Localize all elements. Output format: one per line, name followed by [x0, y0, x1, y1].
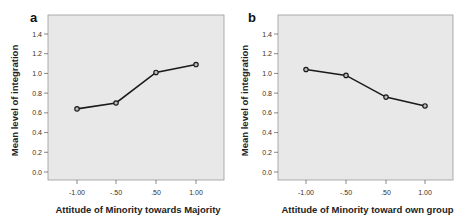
y-tick-label: 1.2	[262, 50, 272, 57]
x-tick-label: -1.00	[298, 189, 314, 196]
data-point	[114, 101, 118, 105]
x-tick-label: -.50	[340, 189, 352, 196]
chart-panel-b: b0.00.20.40.60.81.01.21.4-1.00-.50.501.0…	[239, 10, 454, 215]
data-point	[194, 62, 198, 66]
y-tick-label: 0.4	[32, 129, 42, 136]
data-point	[384, 95, 388, 99]
y-tick-label: 0.0	[262, 169, 272, 176]
data-point	[304, 67, 308, 71]
data-point	[344, 73, 348, 77]
y-tick-label: 1.4	[262, 31, 272, 38]
y-tick-label: 0.6	[262, 109, 272, 116]
panel-label: a	[30, 10, 38, 25]
y-tick-label: 0.2	[262, 149, 272, 156]
x-tick-label: 1.00	[189, 189, 203, 196]
data-point	[423, 104, 427, 108]
data-point	[154, 70, 158, 74]
y-tick-label: 0.6	[32, 109, 42, 116]
x-axis-label: Attitude of Minority towards Majority	[55, 204, 221, 215]
chart-panel-a: a0.00.20.40.60.81.01.21.4-1.00-.50.501.0…	[9, 10, 224, 215]
y-tick-label: 1.2	[32, 50, 42, 57]
x-tick-label: .50	[151, 189, 161, 196]
y-tick-label: 1.0	[32, 70, 42, 77]
panel-label: b	[248, 10, 256, 25]
y-tick-label: 0.0	[32, 169, 42, 176]
y-tick-label: 0.4	[262, 129, 272, 136]
chart-canvas: a0.00.20.40.60.81.01.21.4-1.00-.50.501.0…	[0, 0, 467, 224]
y-tick-label: 0.2	[32, 149, 42, 156]
x-tick-label: .50	[381, 189, 391, 196]
plot-area	[48, 15, 224, 180]
x-tick-label: -1.00	[69, 189, 85, 196]
y-axis-label: Mean level of integration	[9, 45, 20, 157]
x-tick-label: -.50	[110, 189, 122, 196]
y-tick-label: 0.8	[32, 90, 42, 97]
x-tick-label: 1.00	[418, 189, 432, 196]
y-tick-label: 0.8	[262, 90, 272, 97]
x-axis-label: Attitude of Minority toward own group	[281, 204, 453, 215]
y-tick-label: 1.4	[32, 31, 42, 38]
data-point	[75, 107, 79, 111]
y-axis-label: Mean level of integration	[239, 45, 250, 157]
y-tick-label: 1.0	[262, 70, 272, 77]
plot-area	[278, 15, 453, 180]
